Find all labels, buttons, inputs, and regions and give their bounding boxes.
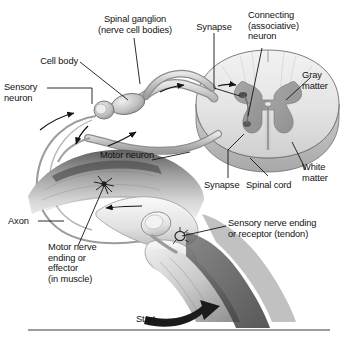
- label-motor-neuron: Motor neuron: [78, 150, 154, 161]
- label-synapse-bottom: Synapse: [204, 180, 254, 191]
- label-spinal-cord: Spinal cord: [246, 180, 316, 191]
- label-gray-matter: Gray matter: [302, 70, 345, 91]
- label-connecting-neuron: Connecting (associative) neuron: [248, 10, 328, 42]
- label-spinal-ganglion: Spinal ganglion (nerve cell bodies): [80, 14, 190, 35]
- spinal-cord-cross-section: [196, 50, 339, 172]
- label-start: Start: [136, 314, 176, 325]
- reflex-arc-figure: Spinal ganglion (nerve cell bodies) Cell…: [0, 0, 345, 341]
- label-cell-body: Cell body: [0, 56, 78, 67]
- label-axon: Axon: [8, 216, 42, 227]
- reflex-arc-illustration: [0, 0, 345, 341]
- label-synapse-top: Synapse: [186, 22, 242, 33]
- label-sensory-neuron: Sensory neuron: [4, 82, 64, 103]
- synapse-dorsal: [239, 92, 247, 98]
- label-motor-nerve-ending: Motor nerve ending or effector (in muscl…: [48, 242, 124, 284]
- label-sensory-nerve-ending: Sensory nerve ending or receptor (tendon…: [228, 218, 345, 239]
